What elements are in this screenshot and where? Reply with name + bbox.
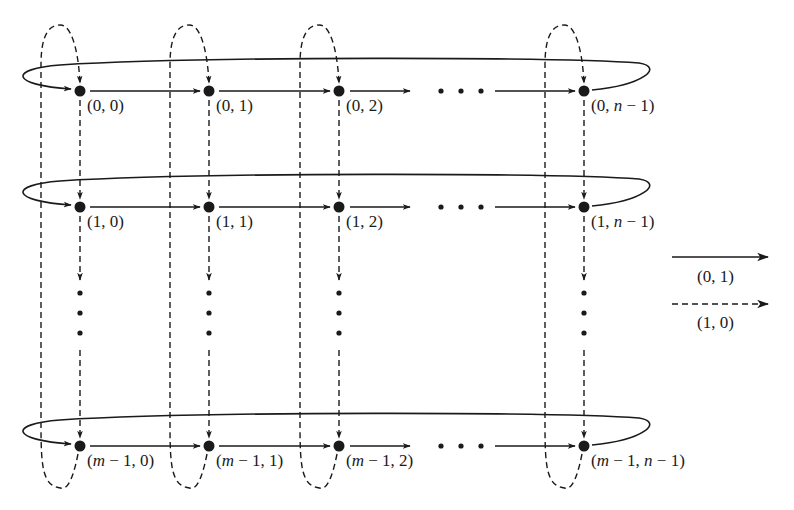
vertical-ellipsis-dot	[206, 290, 211, 295]
grid-node	[75, 202, 86, 213]
row-edges	[23, 58, 650, 446]
node-label: (1, n − 1)	[591, 213, 654, 230]
ellipsis-dots	[77, 88, 586, 448]
node-label: (0, n − 1)	[591, 97, 654, 114]
horizontal-ellipsis-dot	[478, 88, 483, 93]
horizontal-ellipsis-dot	[478, 443, 483, 448]
horizontal-ellipsis-dot	[478, 204, 483, 209]
grid-node	[75, 86, 86, 97]
column-wrap-edge	[170, 25, 209, 488]
node-label: (m − 1, n − 1)	[591, 452, 685, 469]
vertical-ellipsis-dot	[581, 290, 586, 295]
row-wrap-edge	[23, 174, 650, 206]
node-label: (m − 1, 2)	[346, 452, 413, 469]
horizontal-ellipsis-dot	[458, 204, 463, 209]
grid-node	[334, 441, 345, 452]
grid-node	[579, 86, 590, 97]
grid-node	[334, 86, 345, 97]
horizontal-ellipsis-dot	[438, 443, 443, 448]
vertical-ellipsis-dot	[336, 290, 341, 295]
legend-solid-label: (0, 1)	[697, 268, 734, 285]
node-label: (0, 1)	[216, 97, 253, 114]
vertical-ellipsis-dot	[581, 330, 586, 335]
horizontal-ellipsis-dot	[458, 88, 463, 93]
vertical-ellipsis-dot	[77, 290, 82, 295]
horizontal-ellipsis-dot	[458, 443, 463, 448]
horizontal-ellipsis-dot	[438, 204, 443, 209]
grid-node	[75, 441, 86, 452]
vertical-ellipsis-dot	[336, 310, 341, 315]
column-wrap-edge	[300, 25, 339, 488]
grid-node	[579, 202, 590, 213]
node-label: (m − 1, 0)	[87, 452, 154, 469]
row-wrap-edge	[23, 58, 650, 90]
grid-node	[204, 441, 215, 452]
grid-node	[579, 441, 590, 452]
node-label: (1, 2)	[346, 213, 383, 230]
node-label: (0, 0)	[87, 97, 124, 114]
grid-node	[204, 202, 215, 213]
torus-diagram	[0, 0, 794, 510]
grid-node	[334, 202, 345, 213]
vertical-ellipsis-dot	[581, 310, 586, 315]
vertical-ellipsis-dot	[77, 310, 82, 315]
vertical-ellipsis-dot	[336, 330, 341, 335]
node-label: (m − 1, 1)	[216, 452, 283, 469]
vertical-ellipsis-dot	[206, 330, 211, 335]
column-wrap-edge	[545, 25, 584, 488]
grid-node	[204, 86, 215, 97]
vertical-ellipsis-dot	[206, 310, 211, 315]
node-label: (1, 1)	[216, 213, 253, 230]
horizontal-ellipsis-dot	[438, 88, 443, 93]
vertical-ellipsis-dot	[77, 330, 82, 335]
row-wrap-edge	[23, 413, 650, 445]
node-label: (1, 0)	[87, 213, 124, 230]
legend-dashed-label: (1, 0)	[697, 314, 734, 331]
column-edges	[41, 25, 584, 488]
node-label: (0, 2)	[346, 97, 383, 114]
nodes	[75, 86, 590, 452]
